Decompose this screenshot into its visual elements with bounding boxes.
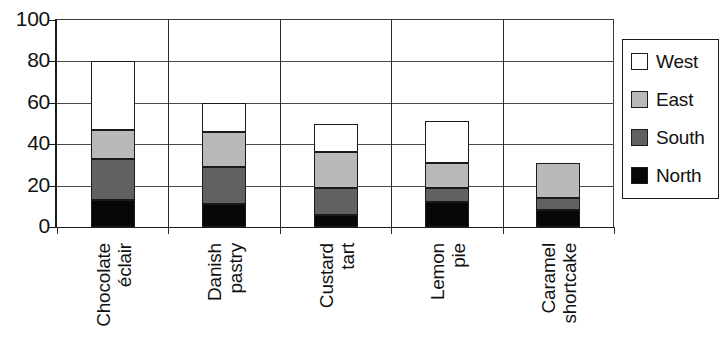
x-axis-category-label: Custard tart (316, 243, 358, 359)
bar-segment-south (202, 167, 246, 204)
category-divider (503, 20, 504, 227)
dark-gray-swatch (631, 129, 648, 146)
bar-segment-west (91, 61, 135, 129)
white-swatch (631, 53, 648, 70)
bar-segment-east (536, 163, 580, 198)
black-swatch (631, 167, 648, 184)
y-axis-tickmark (49, 103, 57, 104)
bar-stack (536, 163, 580, 227)
category-divider (391, 20, 392, 227)
bar-segment-west (202, 103, 246, 132)
plot-right-border (613, 20, 614, 227)
legend: WestEastSouthNorth (622, 39, 719, 199)
legend-item-label: North (656, 166, 701, 185)
y-axis-tickmark (49, 144, 57, 145)
bar-segment-north (91, 200, 135, 227)
legend-item-label: West (656, 52, 698, 71)
y-axis-tick-label: 60 (4, 91, 50, 112)
y-axis-tick-labels: 100806040200 (0, 0, 50, 359)
x-axis-baseline (57, 227, 614, 228)
y-axis-tick-label: 40 (4, 132, 50, 153)
y-axis-tickmark (49, 61, 57, 62)
bar-stack (425, 121, 469, 227)
bar-stack (91, 61, 135, 227)
y-axis-tick-label: 0 (4, 215, 50, 236)
x-axis-tickmark (503, 227, 504, 234)
bar-segment-north (314, 215, 358, 227)
bar-segment-east (91, 130, 135, 159)
bar-segment-north (202, 204, 246, 227)
y-axis-tick-label: 100 (4, 8, 50, 29)
bar-segment-north (425, 202, 469, 227)
bar-segment-south (91, 159, 135, 200)
y-axis-tick-label: 80 (4, 49, 50, 70)
x-axis-tickmark (391, 227, 392, 234)
bar-segment-south (314, 188, 358, 215)
y-axis-tickmark (49, 186, 57, 187)
bar-segment-east (314, 152, 358, 187)
light-gray-swatch (631, 91, 648, 108)
stacked-bar-chart: 100806040200 Chocolate éclairDanish past… (0, 0, 725, 359)
x-axis-category-label: Caramel shortcake (538, 243, 580, 359)
x-axis-category-label: Lemon pie (427, 243, 469, 359)
bar-stack (314, 124, 358, 228)
legend-item-north[interactable]: North (631, 166, 701, 185)
legend-item-west[interactable]: West (631, 52, 698, 71)
bar-stack (202, 103, 246, 227)
x-axis-tickmark (168, 227, 169, 234)
category-divider (168, 20, 169, 227)
gridline (57, 61, 614, 62)
x-axis-category-label: Chocolate éclair (93, 243, 135, 359)
x-axis-tickmark (280, 227, 281, 234)
bar-segment-west (314, 124, 358, 153)
legend-item-south[interactable]: South (631, 128, 705, 147)
category-divider (280, 20, 281, 227)
legend-item-label: South (656, 128, 705, 147)
y-axis-tickmark (49, 20, 57, 21)
x-axis-category-label: Danish pastry (204, 243, 246, 359)
y-axis-tick-label: 20 (4, 174, 50, 195)
legend-item-east[interactable]: East (631, 90, 693, 109)
plot-area (55, 19, 614, 227)
bar-segment-north (536, 210, 580, 227)
legend-item-label: East (656, 90, 693, 109)
bar-segment-south (536, 198, 580, 210)
y-axis-tickmark (49, 227, 57, 228)
bar-segment-south (425, 188, 469, 202)
x-axis-tickmark (57, 227, 58, 234)
bar-segment-east (425, 163, 469, 188)
gridline (57, 103, 614, 104)
x-axis-tickmark (614, 227, 615, 234)
bar-segment-east (202, 132, 246, 167)
bar-segment-west (425, 121, 469, 162)
